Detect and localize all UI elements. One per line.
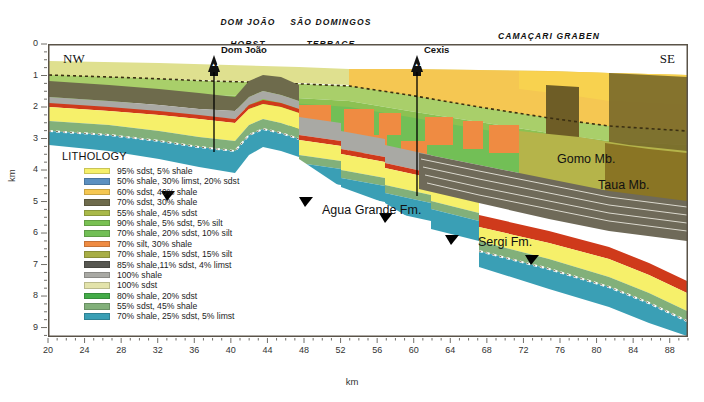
lith-70-shale-15-sdst-15-silt-label: 70% shale, 15% sdst, 15% silt: [117, 249, 232, 259]
x-tick-label: 52: [329, 345, 353, 355]
lith-55-sdst-45-shale-label: 55% sdst, 45% shale: [117, 301, 197, 311]
x-tick-marks: [48, 338, 688, 343]
x-tick-label: 48: [292, 345, 316, 355]
unit-label-gomo-mb: Gomo Mb.: [557, 152, 615, 166]
corner-label-se: SE: [660, 51, 675, 67]
legend-item: 50% shale, 30% limst, 20% sdst: [62, 176, 239, 186]
x-tick-label: 28: [109, 345, 133, 355]
x-tick-label: 32: [146, 345, 170, 355]
lens-silt-4: [425, 117, 453, 145]
y-tick-label: 2: [18, 101, 38, 111]
province-line1: SÃO DOMINGOS: [290, 17, 371, 27]
x-tick-label: 20: [36, 345, 60, 355]
legend-item: 70% sdst, 30% shale: [62, 197, 239, 207]
lith-95-sdst-5-shale-label: 95% sdst, 5% shale: [117, 166, 192, 176]
y-tick-label: 0: [18, 38, 38, 48]
legend-item: 85% shale,11% sdst, 4% limst: [62, 260, 239, 270]
legend-item: 100% shale: [62, 270, 239, 280]
x-tick-label: 56: [365, 345, 389, 355]
lith-70-sdst-30-shale-label: 70% sdst, 30% shale: [117, 197, 197, 207]
y-tick-label: 8: [18, 290, 38, 300]
x-tick-label: 40: [219, 345, 243, 355]
lith-50-shale-30-limst-20-sdst-label: 50% shale, 30% limst, 20% sdst: [117, 176, 239, 186]
lith-60-sdst-40-shale-label: 60% sdst, 40% shale: [117, 187, 197, 197]
lens-silt-6: [489, 125, 519, 153]
y-tick-label: 1: [18, 70, 38, 80]
lithology-legend: LITHOLOGY 95% sdst, 5% shale50% shale, 3…: [62, 150, 239, 322]
x-tick-label: 24: [73, 345, 97, 355]
lith-70-silt-30-shale-label: 70% silt, 30% shale: [117, 239, 192, 249]
legend-item: 100% sdst: [62, 280, 239, 290]
lith-70-shale-20-sdst-10-silt-swatch: [84, 230, 110, 237]
lith-70-sdst-30-shale-swatch: [84, 199, 110, 206]
province-line1: CAMAÇARI GRABEN: [498, 31, 600, 41]
y-tick-label: 5: [18, 196, 38, 206]
lith-100-sdst-swatch: [84, 282, 110, 289]
lith-100-sdst-label: 100% sdst: [117, 280, 157, 290]
lith-55-shale-45-sdst-label: 55% shale, 45% sdst: [117, 208, 197, 218]
y-tick-marks: [41, 44, 47, 335]
lith-55-shale-45-sdst-swatch: [84, 210, 110, 217]
lith-85-shale-11-sdst-4-limst-label: 85% shale,11% sdst, 4% limst: [117, 260, 231, 270]
lith-70-silt-30-shale-swatch: [84, 241, 110, 248]
x-tick-label: 76: [548, 345, 572, 355]
y-tick-label: 7: [18, 259, 38, 269]
legend-item: 55% shale, 45% sdst: [62, 208, 239, 218]
lith-70-shale-15-sdst-15-silt-swatch: [84, 251, 110, 258]
x-tick-label: 44: [255, 345, 279, 355]
legend-item: 95% sdst, 5% shale: [62, 166, 239, 176]
y-tick-label: 9: [18, 322, 38, 332]
lith-55-sdst-45-shale-swatch: [84, 303, 110, 310]
well-label-cexis: Cexis: [424, 44, 449, 55]
legend-item: 70% shale, 25% sdst, 5% limst: [62, 311, 239, 321]
y-tick-label: 4: [18, 164, 38, 174]
unit-label-agua-grande-fm: Agua Grande Fm.: [322, 203, 421, 217]
x-tick-label: 64: [438, 345, 462, 355]
x-tick-label: 88: [658, 345, 682, 355]
x-tick-label: 72: [511, 345, 535, 355]
lens-silt-3: [379, 113, 401, 135]
x-tick-label: 84: [621, 345, 645, 355]
unit-label-taua-mb: Taua Mb.: [598, 178, 649, 192]
legend-item: 70% shale, 20% sdst, 10% silt: [62, 228, 239, 238]
lith-90-shale-5-sdst-5-silt-label: 90% shale, 5% sdst, 5% silt: [117, 218, 223, 228]
lith-95-sdst-5-shale-swatch: [84, 168, 110, 175]
legend-item: 70% silt, 30% shale: [62, 239, 239, 249]
y-tick-label: 6: [18, 227, 38, 237]
x-axis-label: km: [0, 376, 704, 387]
legend-item: 55% sdst, 45% shale: [62, 301, 239, 311]
x-tick-label: 36: [182, 345, 206, 355]
lith-85-shale-11-sdst-4-limst-swatch: [84, 261, 110, 268]
block-brown-mid: [546, 85, 579, 141]
lith-70-shale-20-sdst-10-silt-label: 70% shale, 20% sdst, 10% silt: [117, 228, 232, 238]
lith-70-shale-25-sdst-5-limst-swatch: [84, 313, 110, 320]
lith-50-shale-30-limst-20-sdst-swatch: [84, 178, 110, 185]
cross-section-figure: DOM JOÃO HORST SÃO DOMINGOS TERRACE CAMA…: [0, 0, 704, 402]
legend-item: 90% shale, 5% sdst, 5% silt: [62, 218, 239, 228]
lith-60-sdst-40-shale-swatch: [84, 189, 110, 196]
lith-80-shale-20-sdst-label: 80% shale, 20% sdst: [117, 291, 197, 301]
lith-100-shale-label: 100% shale: [117, 270, 162, 280]
y-axis-label: km: [6, 169, 17, 182]
lith-80-shale-20-sdst-swatch: [84, 293, 110, 300]
lith-100-shale-swatch: [84, 272, 110, 279]
x-tick-label: 60: [402, 345, 426, 355]
unit-label-sergi-fm: Sergi Fm.: [478, 235, 532, 249]
x-tick-label: 80: [585, 345, 609, 355]
x-tick-label: 68: [475, 345, 499, 355]
legend-item: 80% shale, 20% sdst: [62, 291, 239, 301]
legend-item: 70% shale, 15% sdst, 15% silt: [62, 249, 239, 259]
legend-title: LITHOLOGY: [62, 150, 239, 162]
well-label-dom-joao: Dom João: [221, 44, 267, 55]
legend-item: 60% sdst, 40% shale: [62, 187, 239, 197]
lith-70-shale-25-sdst-5-limst-label: 70% shale, 25% sdst, 5% limst: [117, 311, 235, 321]
legend-rows: 95% sdst, 5% shale50% shale, 30% limst, …: [62, 166, 239, 322]
lith-90-shale-5-sdst-5-silt-swatch: [84, 220, 110, 227]
corner-label-nw: NW: [63, 51, 85, 67]
y-tick-label: 3: [18, 133, 38, 143]
lens-silt-5: [463, 121, 483, 149]
